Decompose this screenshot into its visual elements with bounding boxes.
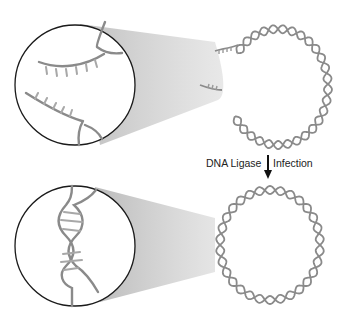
bottom-magnifier <box>15 186 135 306</box>
down-arrow-icon <box>264 155 272 179</box>
infection-label: Infection <box>273 157 313 169</box>
dna-ligase-label: DNA Ligase <box>206 157 261 169</box>
bottom-circular-dna <box>216 186 323 304</box>
